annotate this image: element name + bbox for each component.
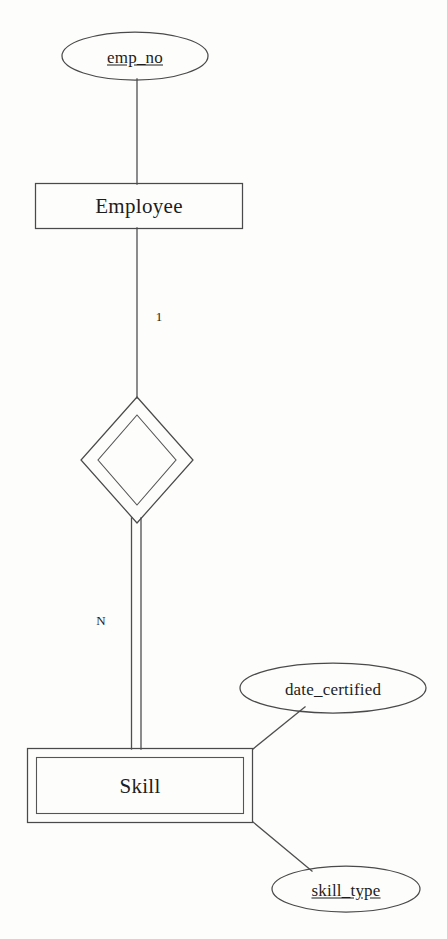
attribute-label-emp-no: emp_no [107, 49, 163, 66]
er-diagram-graphics [0, 0, 447, 939]
cardinality-label-many: N [96, 614, 105, 627]
entity-label-skill: Skill [119, 776, 160, 797]
attribute-label-date-certified: date_certified [285, 681, 381, 698]
cardinality-label-one: 1 [156, 310, 163, 323]
entity-label-employee: Employee [95, 196, 183, 217]
connector-skill-to-skill-type [253, 822, 312, 871]
connector-skill-to-date-certified [253, 707, 305, 749]
attribute-label-skill-type: skill_type [311, 882, 380, 899]
er-diagram-canvas: emp_no Employee 1 N date_certified Skill… [0, 0, 447, 939]
